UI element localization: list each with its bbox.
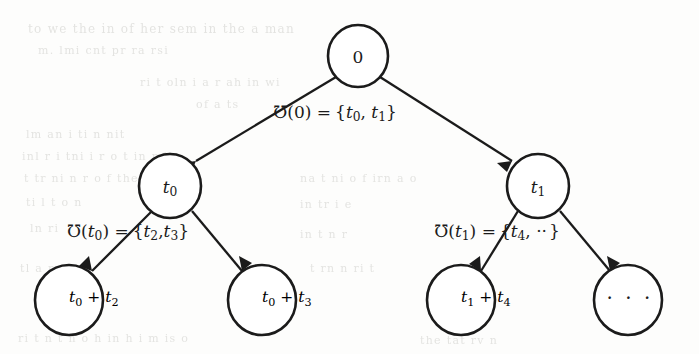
nodes-group: 0 t0 t1 t0 + t2 (35, 25, 662, 335)
leaf3-term1-sub: 1 (467, 296, 474, 309)
leaf3-operator: + (474, 288, 497, 306)
figure-canvas: to we the in of her sem in the a manm. l… (0, 0, 699, 354)
leaf2-operator: + (275, 288, 298, 306)
right-label-set-close: } (549, 221, 560, 241)
right-label-paren-open: ( (448, 221, 455, 241)
edge-label-successors-of-t0: ℧(t0) ={t2,t3} (67, 221, 189, 243)
root-label-comma: , (361, 102, 372, 122)
left-label-equals: = (114, 221, 128, 241)
node-leaf-t0-plus-t2[interactable]: t0 + t2 (35, 265, 119, 335)
right-label-paren-close: ) (470, 221, 482, 241)
edge-t0-to-leaf2 (192, 211, 252, 271)
left-label-set-open: { (133, 221, 144, 241)
node-t1-sub: 1 (538, 185, 546, 199)
left-label-member2-sub: 3 (170, 229, 178, 243)
root-label-set-open: { (335, 102, 346, 122)
edge-line-t1-to-leaf4 (560, 211, 610, 271)
leaf2-term2-sub: 3 (304, 296, 311, 309)
leaf2-term1-sub: 0 (268, 296, 275, 309)
left-label-member1-sub: 2 (150, 229, 158, 243)
root-label-paren-close: ) (305, 102, 317, 122)
right-label-member1-sub: 4 (518, 229, 526, 243)
edge-root-to-t0 (181, 77, 336, 172)
node-root-label: 0 (353, 47, 364, 67)
node-leaf-t0-plus-t3[interactable]: t0 + t3 (228, 265, 312, 335)
root-label-argument: 0 (294, 102, 305, 122)
node-leaf4-label: · · · (607, 286, 654, 310)
right-label-ellipsis: ·· (536, 221, 547, 241)
edge-label-successors-of-t1: ℧(t1) ={t4, ··} (434, 221, 560, 243)
root-label-paren-open: ( (287, 102, 294, 122)
root-label-operator-icon: ℧ (273, 102, 287, 122)
left-label-paren-close: ) (102, 221, 114, 241)
right-label-equals: = (482, 221, 496, 241)
edge-label-successors-of-root: ℧(0) ={t0, t1} (273, 102, 397, 124)
right-label-argument-sub: 1 (462, 229, 470, 243)
node-t0-sub: 0 (170, 185, 178, 199)
leaf1-operator: + (82, 288, 105, 306)
node-t1[interactable]: t1 (507, 154, 569, 218)
left-label-paren-open: ( (81, 221, 88, 241)
leaf1-term2-sub: 2 (111, 296, 118, 309)
left-label-operator-icon: ℧ (67, 221, 81, 241)
root-label-member2-sub: 1 (378, 110, 386, 124)
edge-t1-to-leaf4 (560, 211, 620, 271)
leaf3-term2-sub: 4 (503, 296, 510, 309)
tree-diagram-svg: 0 t0 t1 t0 + t2 (0, 0, 699, 354)
right-label-comma: , (525, 221, 536, 241)
edge-root-to-t1 (380, 77, 512, 172)
node-root[interactable]: 0 (328, 25, 388, 87)
root-label-member1-sub: 0 (353, 110, 361, 124)
right-label-operator-icon: ℧ (434, 221, 448, 241)
left-label-argument-sub: 0 (95, 229, 103, 243)
edge-line-root-to-t1 (380, 77, 512, 161)
node-leaf-t1-plus-t4[interactable]: t1 + t4 (427, 265, 511, 335)
node-t0[interactable]: t0 (139, 154, 201, 218)
edge-line-t0-to-leaf2 (192, 211, 242, 271)
node-leaf-ellipsis[interactable]: · · · (594, 265, 662, 335)
root-label-equals: = (317, 102, 331, 122)
right-label-set-open: { (500, 221, 511, 241)
root-label-set-close: } (386, 102, 397, 122)
leaf1-term1-sub: 0 (75, 296, 82, 309)
left-label-set-close: } (178, 221, 189, 241)
